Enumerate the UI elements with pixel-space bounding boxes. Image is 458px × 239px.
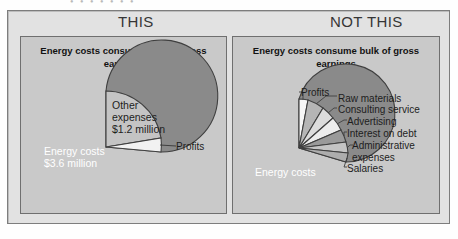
- callout-consulting-service: Consulting service: [338, 104, 420, 116]
- callout-salaries: Salaries: [347, 163, 383, 175]
- callout-raw-materials: Raw materials: [338, 93, 401, 105]
- label-energy-costs-right: Energy costs: [255, 166, 316, 178]
- callout-profits: Profits: [301, 87, 329, 99]
- callout-interest-on-debt: Interest on debt: [347, 128, 417, 140]
- callout-advertising: Advertising: [347, 116, 396, 128]
- figure-container: • • • • • • • THIS NOT THIS Energy costs…: [0, 0, 458, 239]
- callout-administrative-expenses: Administrative expenses: [352, 140, 415, 163]
